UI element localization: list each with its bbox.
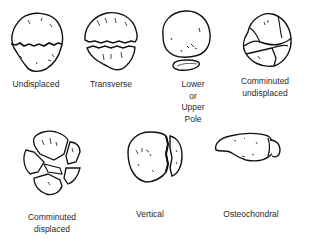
label-transverse: Transverse (90, 79, 132, 91)
label-osteochondral: Osteochondral (223, 209, 278, 221)
pole-fracture-drawing (157, 8, 213, 72)
vertical-fracture-drawing (122, 130, 184, 186)
label-comminuted-undisplaced: Comminuted undisplaced (241, 76, 289, 99)
osteochondral-fracture-drawing (212, 130, 282, 166)
comminuted-undisplaced-fracture-drawing (238, 10, 294, 70)
label-undisplaced: Undisplaced (13, 79, 60, 91)
undisplaced-fracture-drawing (8, 10, 64, 74)
label-comminuted-displaced: Comminuted displaced (28, 212, 76, 235)
comminuted-displaced-fracture-drawing (20, 128, 88, 200)
transverse-fracture-drawing (81, 10, 139, 74)
label-vertical: Vertical (136, 209, 164, 221)
label-pole: Lower or Upper Pole (181, 79, 204, 125)
